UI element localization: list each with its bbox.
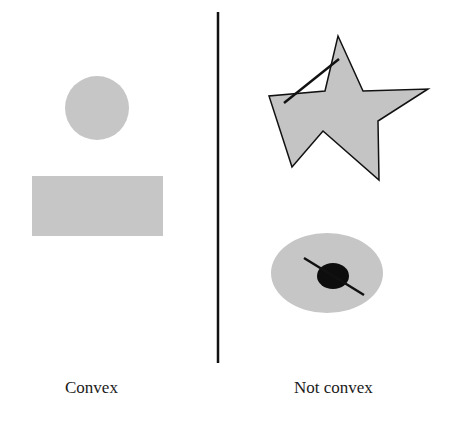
convex-circle (65, 76, 129, 140)
convexity-diagram (0, 0, 451, 421)
convex-label: Convex (65, 378, 118, 398)
convex-rectangle (32, 176, 163, 236)
not-convex-label: Not convex (294, 378, 373, 398)
nonconvex-star (269, 36, 428, 180)
